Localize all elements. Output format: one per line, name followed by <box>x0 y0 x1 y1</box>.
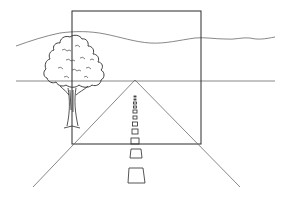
tree-foliage-texture <box>58 45 94 78</box>
road-right-edge <box>135 80 240 187</box>
road-dash <box>131 138 139 144</box>
road-dash <box>130 149 142 158</box>
hill-line <box>16 32 275 46</box>
perspective-illustration <box>0 0 290 200</box>
road-dash <box>134 96 136 97</box>
drawing-svg <box>0 0 290 200</box>
road-dash <box>133 110 137 113</box>
road-dash <box>133 122 138 126</box>
tree-trunk <box>60 86 88 128</box>
road-left-edge <box>33 80 135 187</box>
road-center-dashes <box>128 96 145 183</box>
road-dash <box>134 106 137 108</box>
road-dash <box>128 168 145 183</box>
picture-frame <box>72 11 201 144</box>
road-dash <box>134 99 136 100</box>
road-dash <box>132 129 138 134</box>
road-dash <box>134 102 137 104</box>
road-dash <box>133 116 137 119</box>
tree <box>44 35 104 128</box>
tree-canopy <box>44 35 104 87</box>
